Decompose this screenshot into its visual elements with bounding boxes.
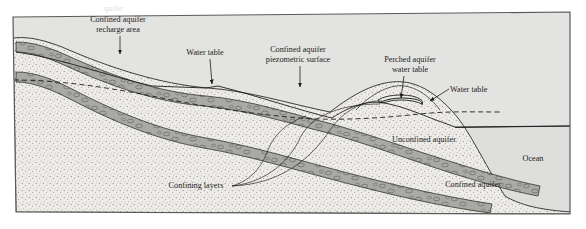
label-unconfined-aquifer: Unconfined aquifer (392, 135, 456, 144)
piezometric-line1: Confined aquifer (270, 45, 326, 54)
perched-line2: water table (392, 65, 429, 74)
label-ocean: Ocean (523, 154, 544, 163)
cross-section-diagram: quifer Confined aquifer re (0, 0, 586, 229)
page-artifact-text: quifer (104, 4, 124, 13)
confined-recharge-line2: recharge area (96, 25, 140, 34)
label-confining-layers: Confining layers (169, 181, 224, 190)
svg-text:quifer: quifer (104, 4, 124, 13)
piezometric-line2: piezometric surface (266, 55, 331, 64)
label-confined-aquifer: Confined aquifer (445, 180, 501, 189)
figure-canvas: quifer Confined aquifer re (0, 0, 586, 229)
perched-line1: Perched aquifer (384, 55, 436, 64)
water-table-left-text: Water table (186, 48, 224, 57)
confined-recharge-line1: Confined aquifer (90, 15, 146, 24)
water-table-right-text: Water table (450, 85, 488, 94)
